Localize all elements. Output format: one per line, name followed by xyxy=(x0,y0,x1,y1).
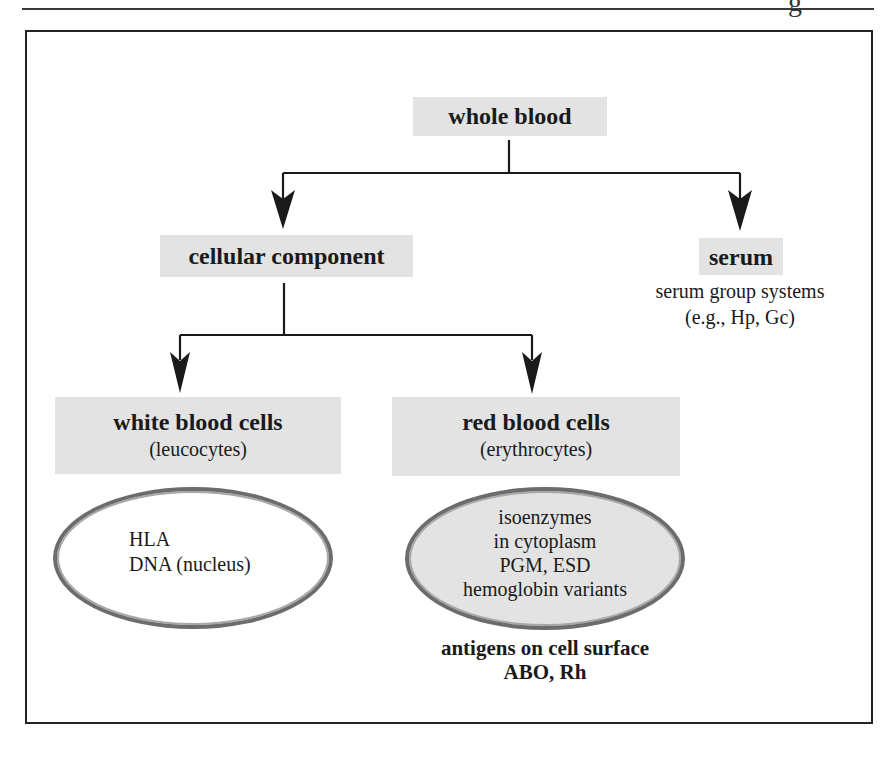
red-cell-content-line: hemoglobin variants xyxy=(405,577,685,601)
red-cell-contents: isoenzymes in cytoplasm PGM, ESD hemoglo… xyxy=(405,505,685,601)
node-label: serum xyxy=(699,242,783,272)
surface-antigens-line: ABO, Rh xyxy=(395,660,695,684)
white-cell-content-line: DNA (nucleus) xyxy=(129,552,251,577)
arrow-down-icon xyxy=(728,173,752,231)
surface-antigens-line: antigens on cell surface xyxy=(395,636,695,660)
white-cell-content-line: HLA xyxy=(129,527,251,552)
node-label: cellular component xyxy=(160,241,413,271)
node-label: white blood cells xyxy=(55,407,341,437)
node-sublabel: (erythrocytes) xyxy=(392,437,680,461)
white-cell-contents: HLA DNA (nucleus) xyxy=(129,527,251,577)
serum-description: serum group systems (e.g., Hp, Gc) xyxy=(620,278,860,330)
node-whole-blood: whole blood xyxy=(413,97,607,136)
arrow-down-icon xyxy=(170,335,190,393)
arrow-down-icon xyxy=(522,335,542,394)
node-label: whole blood xyxy=(413,101,607,131)
arrow-down-icon xyxy=(271,173,295,229)
serum-description-line: serum group systems xyxy=(620,278,860,304)
red-cell-content-line: PGM, ESD xyxy=(405,553,685,577)
node-serum: serum xyxy=(699,238,783,275)
node-red-blood-cells: red blood cells (erythrocytes) xyxy=(392,397,680,476)
red-cell-content-line: in cytoplasm xyxy=(405,529,685,553)
node-cellular-component: cellular component xyxy=(160,235,413,277)
node-label: red blood cells xyxy=(392,407,680,437)
node-white-blood-cells: white blood cells (leucocytes) xyxy=(55,397,341,474)
serum-description-line: (e.g., Hp, Gc) xyxy=(620,304,860,330)
node-sublabel: (leucocytes) xyxy=(55,437,341,461)
red-cell-content-line: isoenzymes xyxy=(405,505,685,529)
red-cell-surface-antigens: antigens on cell surface ABO, Rh xyxy=(395,636,695,684)
